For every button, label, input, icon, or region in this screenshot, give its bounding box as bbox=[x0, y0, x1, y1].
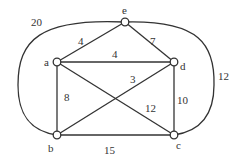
weighted-graph-diagram: 474812310152012 eadbc bbox=[0, 0, 242, 162]
node-label-b: b bbox=[48, 142, 54, 154]
edge-weight-e-a: 4 bbox=[78, 35, 84, 47]
graph-edges bbox=[18, 22, 214, 135]
edge-weight-b-c: 15 bbox=[104, 144, 116, 156]
edge-weight-d-c: 10 bbox=[177, 94, 189, 106]
edge-weight-a-c: 12 bbox=[145, 102, 156, 114]
node-label-a: a bbox=[44, 56, 49, 68]
node-label-c: c bbox=[176, 139, 181, 151]
edge-e-c bbox=[125, 22, 214, 135]
edge-weight-a-d: 4 bbox=[112, 48, 118, 60]
node-labels: eadbc bbox=[44, 4, 186, 154]
edge-weight-a-b: 8 bbox=[64, 91, 70, 103]
node-d bbox=[170, 58, 178, 66]
node-a bbox=[53, 58, 61, 66]
graph-nodes bbox=[53, 18, 178, 139]
edge-weight-d-b: 3 bbox=[130, 73, 136, 85]
edge-weight-e-d: 7 bbox=[150, 35, 156, 47]
node-c bbox=[170, 131, 178, 139]
node-e bbox=[121, 18, 129, 26]
node-b bbox=[53, 131, 61, 139]
edge-weight-e-b: 20 bbox=[31, 16, 43, 28]
edge-e-b bbox=[18, 22, 125, 135]
node-label-d: d bbox=[180, 60, 186, 72]
edge-weight-e-c: 12 bbox=[218, 70, 229, 82]
node-label-e: e bbox=[122, 4, 127, 16]
